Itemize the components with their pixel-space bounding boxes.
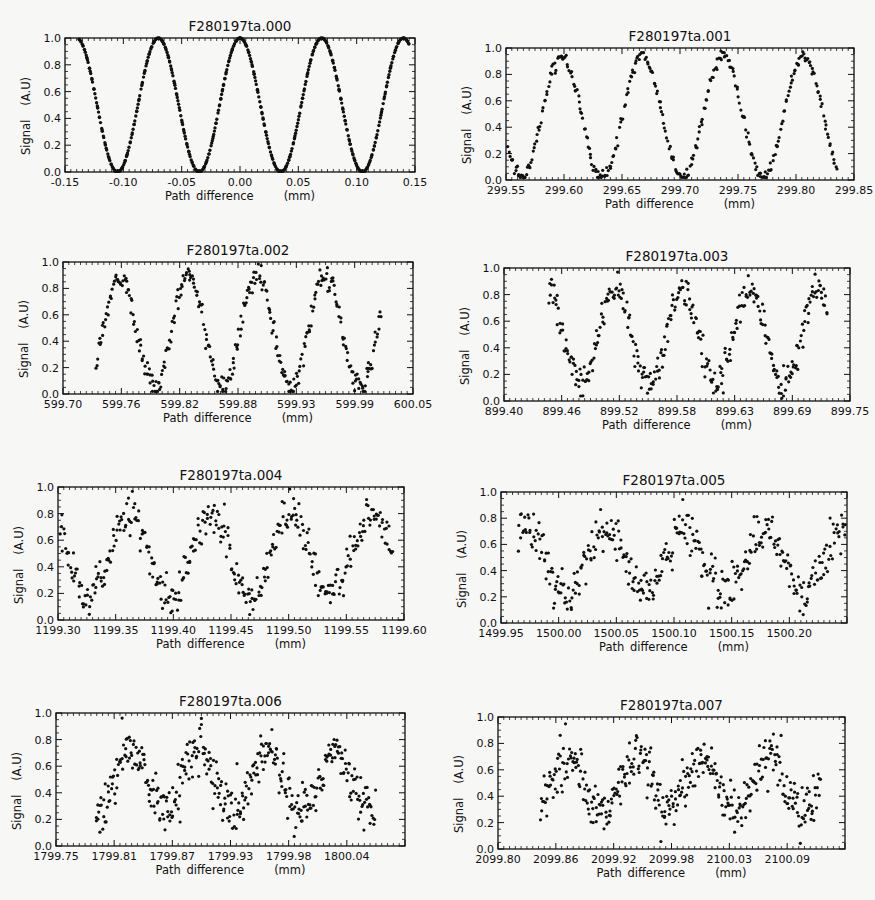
y-tick-label: 0.6	[477, 764, 495, 777]
y-tick-label: 0.2	[477, 817, 495, 830]
y-tick-label: 0.8	[477, 737, 495, 750]
y-tick-label: 1.0	[477, 711, 495, 724]
plot-area: 2099.802099.862099.922099.982100.032100.…	[0, 0, 875, 900]
x-axis-label: Path difference(mm)	[596, 866, 746, 880]
y-axis-unit: (A.U)	[452, 755, 466, 784]
y-tick-label: 0.4	[477, 790, 495, 803]
x-axis-unit: (mm)	[715, 866, 746, 880]
x-tick-label: 2100.09	[764, 853, 810, 866]
y-tick-label: 0.0	[477, 843, 495, 856]
x-tick-label: 2099.98	[649, 853, 695, 866]
x-tick-label: 2099.86	[533, 853, 579, 866]
y-axis-label-text: Signal	[452, 798, 466, 833]
x-tick-label: 2099.92	[591, 853, 637, 866]
y-axis-label: Signal(A.U)	[452, 755, 466, 833]
x-axis-label-text: Path difference	[596, 866, 685, 880]
data-points	[539, 722, 822, 845]
x-tick-label: 2100.03	[707, 853, 753, 866]
